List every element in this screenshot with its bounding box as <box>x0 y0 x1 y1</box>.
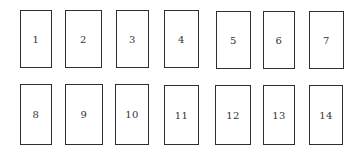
box-2: 2 <box>65 10 102 68</box>
box-label: 4 <box>178 34 185 45</box>
box-14: 14 <box>309 85 343 145</box>
box-1: 1 <box>20 10 52 68</box>
box-7: 7 <box>309 11 344 69</box>
box-label: 5 <box>230 35 237 46</box>
box-label: 13 <box>272 110 286 121</box>
box-label: 9 <box>81 109 88 120</box>
box-label: 8 <box>33 109 40 120</box>
box-6: 6 <box>263 11 295 69</box>
box-label: 1 <box>33 34 40 45</box>
box-13: 13 <box>263 85 295 145</box>
box-label: 11 <box>175 110 189 121</box>
box-11: 11 <box>164 85 199 145</box>
box-label: 2 <box>80 34 87 45</box>
box-label: 14 <box>319 110 333 121</box>
box-label: 6 <box>276 35 283 46</box>
box-label: 12 <box>226 110 240 121</box>
box-label: 3 <box>129 34 136 45</box>
box-10: 10 <box>115 84 149 145</box>
box-8: 8 <box>20 84 52 145</box>
box-label: 10 <box>125 109 139 120</box>
box-label: 7 <box>323 35 330 46</box>
box-9: 9 <box>65 84 103 145</box>
box-4: 4 <box>164 10 199 68</box>
box-3: 3 <box>116 10 149 68</box>
box-5: 5 <box>216 11 251 69</box>
box-12: 12 <box>215 85 251 145</box>
